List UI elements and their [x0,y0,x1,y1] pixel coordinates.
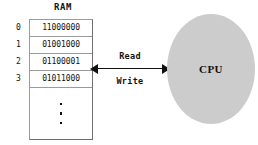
ram-index-3: 3 [12,70,25,87]
memory-bus-arrow [90,64,170,74]
vertical-ellipsis-dot-icon [60,122,63,125]
ram-table: 11000000 01001000 01100001 01011000 [29,19,93,140]
ram-index-1: 1 [12,36,25,53]
ram-index-0: 0 [12,19,25,36]
ram-row: 01011000 [30,71,92,88]
vertical-ellipsis-dot-icon [60,103,63,106]
cpu-label: CPU [199,63,223,75]
ram-cell-value-1: 01001000 [42,41,80,49]
ram-row: 01100001 [30,54,92,71]
ram-cpu-diagram: RAM 0 1 2 3 11000000 01001000 01100001 0… [0,0,258,145]
vertical-ellipsis-dot-icon [60,112,63,115]
bus-line [96,68,164,69]
ram-cell-value-0: 11000000 [42,24,80,32]
write-label: Write [90,76,170,86]
ram-title: RAM [30,2,96,12]
ram-index-2: 2 [12,53,25,70]
cpu-circle: CPU [167,14,255,124]
ram-row: 11000000 [30,20,92,37]
read-label: Read [90,51,170,61]
ram-cell-value-2: 01100001 [42,58,80,66]
ram-index-column: 0 1 2 3 [12,19,25,87]
ram-row: 01001000 [30,37,92,54]
ram-ellipsis-row [30,88,92,139]
ram-cell-value-3: 01011000 [42,75,80,83]
